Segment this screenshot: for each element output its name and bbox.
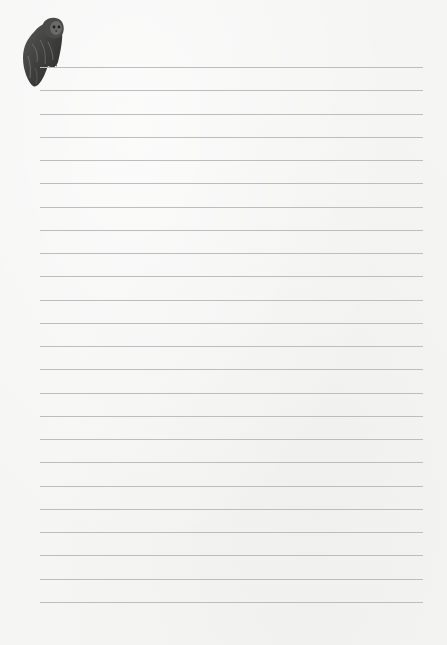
notepaper-page xyxy=(0,0,447,645)
ruled-line xyxy=(40,253,423,254)
ruled-line xyxy=(40,160,423,161)
ruled-line xyxy=(40,137,423,138)
ruled-line xyxy=(40,90,423,91)
ruled-line xyxy=(40,183,423,184)
ruled-line xyxy=(40,579,423,580)
ruled-line xyxy=(40,509,423,510)
ruled-line xyxy=(40,346,423,347)
ruled-line xyxy=(40,300,423,301)
ruled-line xyxy=(40,532,423,533)
ruled-line xyxy=(40,323,423,324)
ruled-line xyxy=(40,393,423,394)
ruled-line xyxy=(40,462,423,463)
ruled-line xyxy=(40,67,423,68)
ruled-line xyxy=(40,439,423,440)
ruled-lines xyxy=(40,0,423,645)
ruled-line xyxy=(40,555,423,556)
ruled-line xyxy=(40,486,423,487)
ruled-line xyxy=(40,207,423,208)
ruled-line xyxy=(40,369,423,370)
ruled-line xyxy=(40,230,423,231)
ruled-line xyxy=(40,602,423,603)
ruled-line xyxy=(40,276,423,277)
ruled-line xyxy=(40,114,423,115)
ruled-line xyxy=(40,416,423,417)
